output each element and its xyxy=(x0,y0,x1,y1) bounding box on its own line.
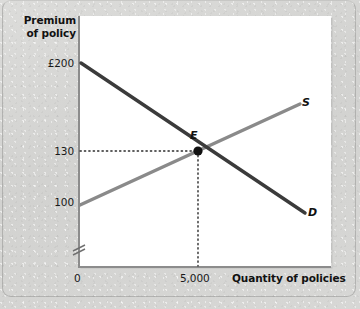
figure-container: Premium of policy Quantity of policies £… xyxy=(0,0,360,309)
x-tick-label-0: 0 xyxy=(74,272,81,284)
plot-panel xyxy=(79,16,331,267)
y-tick-label-100: 100 xyxy=(16,196,74,208)
y-axis-break-icon xyxy=(70,238,88,260)
y-tick-label-130: 130 xyxy=(16,145,74,157)
y-tick-label-200: £200 xyxy=(16,57,74,69)
x-axis-title: Quantity of policies xyxy=(232,272,346,284)
demand-curve-label: D xyxy=(308,206,317,219)
y-axis-title-line-2: of policy xyxy=(14,27,76,40)
equilibrium-point-label: E xyxy=(190,129,198,142)
y-axis-line xyxy=(78,16,80,268)
x-tick-label-5000: 5,000 xyxy=(180,272,210,284)
x-axis-line xyxy=(78,266,331,268)
y-axis-title: Premium of policy xyxy=(14,14,76,40)
y-axis-title-line-1: Premium xyxy=(14,14,76,27)
supply-curve-label: S xyxy=(302,96,310,109)
